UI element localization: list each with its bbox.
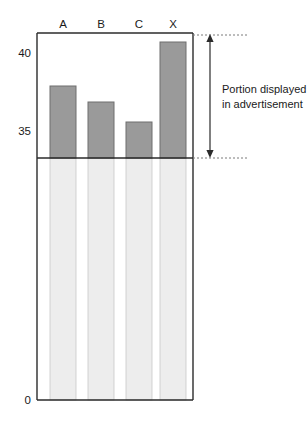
portion-range-arrow [206,34,213,158]
bar-lower-a [50,158,76,400]
category-label-a: A [59,18,67,30]
bar-upper-segments [50,42,186,158]
bar-chart-figure: 40 35 0 A B C X Portion displayed in adv… [0,0,307,426]
category-label-c: C [135,18,143,30]
bar-lower-x [160,158,186,400]
y-tick-label-40: 40 [18,47,31,59]
bar-lower-segments [50,158,186,400]
arrow-head-down [206,150,213,158]
chart-canvas: 40 35 0 A B C X Portion displayed in adv… [0,0,307,426]
annotation-line-1: Portion displayed [222,83,306,95]
bar-upper-c [126,122,152,158]
annotation-portion-displayed: Portion displayed in advertisement [222,83,306,110]
arrow-head-up [206,34,213,42]
category-label-b: B [97,18,105,30]
dotted-leaders [193,35,247,158]
bar-lower-b [88,158,114,400]
bar-upper-b [88,102,114,158]
bar-upper-a [50,86,76,158]
y-axis-tick-labels: 40 35 0 [18,47,31,406]
y-tick-label-35: 35 [18,125,31,137]
annotation-line-2: in advertisement [222,98,303,110]
y-tick-label-0: 0 [25,394,31,406]
category-labels: A B C X [59,18,177,30]
bar-lower-c [126,158,152,400]
category-label-x: X [169,18,177,30]
bar-upper-x [160,42,186,158]
